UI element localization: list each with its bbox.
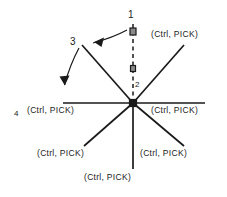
ray-upper-right: [133, 45, 184, 103]
pick-label-top-right: (Ctrl, PICK): [151, 29, 198, 39]
marker-top-square: [130, 28, 136, 35]
pick-label-bottom: (Ctrl, PICK): [84, 172, 131, 182]
pick-label-mid-left: (Ctrl, PICK): [27, 105, 74, 115]
diagram-canvas: 1 2 3 4 (Ctrl, PICK) (Ctrl, PICK) (Ctrl,…: [0, 0, 227, 197]
pick-label-mid-right: (Ctrl, PICK): [151, 105, 198, 115]
ray-upper-left: [82, 45, 133, 103]
callout-number-2: 2: [135, 80, 139, 89]
arrow-lower-curved: [60, 48, 80, 86]
callout-number-1: 1: [128, 9, 134, 20]
marker-center-square: [130, 100, 137, 107]
marker-middle-square: [131, 66, 136, 72]
arrow-upper-curved: [93, 30, 127, 47]
callout-number-4: 4: [14, 109, 18, 118]
pick-label-bottom-right: (Ctrl, PICK): [140, 148, 187, 158]
callout-number-3: 3: [70, 36, 76, 47]
ray-lower-left: [84, 103, 133, 146]
pick-label-bottom-left: (Ctrl, PICK): [37, 148, 84, 158]
